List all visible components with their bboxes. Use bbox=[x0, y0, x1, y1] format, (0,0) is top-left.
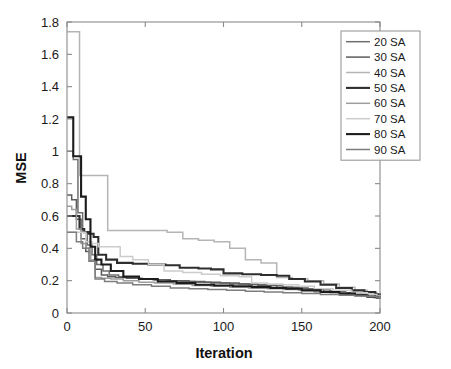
y-tick-label: 1 bbox=[52, 144, 59, 159]
x-tick-label: 0 bbox=[63, 319, 70, 334]
y-tick-label: 1.8 bbox=[41, 15, 59, 30]
legend-label-40-sa: 40 SA bbox=[374, 67, 406, 79]
legend-label-20-sa: 20 SA bbox=[374, 36, 406, 48]
x-tick-label: 100 bbox=[213, 319, 235, 334]
legend-label-50-sa: 50 SA bbox=[374, 82, 406, 94]
x-axis-title: Iteration bbox=[195, 345, 252, 361]
y-tick-label: 0.2 bbox=[41, 273, 59, 288]
x-tick-label: 200 bbox=[369, 319, 391, 334]
y-tick-label: 1.4 bbox=[41, 79, 59, 94]
legend-label-70-sa: 70 SA bbox=[374, 113, 406, 125]
mse-vs-iteration-chart: 00.20.40.60.811.21.41.61.8050100150200 M… bbox=[0, 0, 451, 369]
legend-label-80-sa: 80 SA bbox=[374, 128, 406, 140]
x-tick-label: 150 bbox=[291, 319, 313, 334]
y-tick-label: 1.6 bbox=[41, 47, 59, 62]
legend-label-60-sa: 60 SA bbox=[374, 97, 406, 109]
y-tick-label: 0 bbox=[52, 306, 59, 321]
legend-label-90-sa: 90 SA bbox=[374, 144, 406, 156]
y-tick-label: 1.2 bbox=[41, 112, 59, 127]
chart-figure: 00.20.40.60.811.21.41.61.8050100150200 M… bbox=[0, 0, 451, 369]
x-tick-label: 50 bbox=[138, 319, 152, 334]
y-tick-label: 0.4 bbox=[41, 241, 59, 256]
y-tick-label: 0.6 bbox=[41, 209, 59, 224]
y-tick-label: 0.8 bbox=[41, 176, 59, 191]
chart-legend: 20 SA30 SA40 SA50 SA60 SA70 SA80 SA90 SA bbox=[341, 31, 420, 160]
y-axis-title: MSE bbox=[13, 152, 29, 184]
legend-label-30-sa: 30 SA bbox=[374, 51, 406, 63]
